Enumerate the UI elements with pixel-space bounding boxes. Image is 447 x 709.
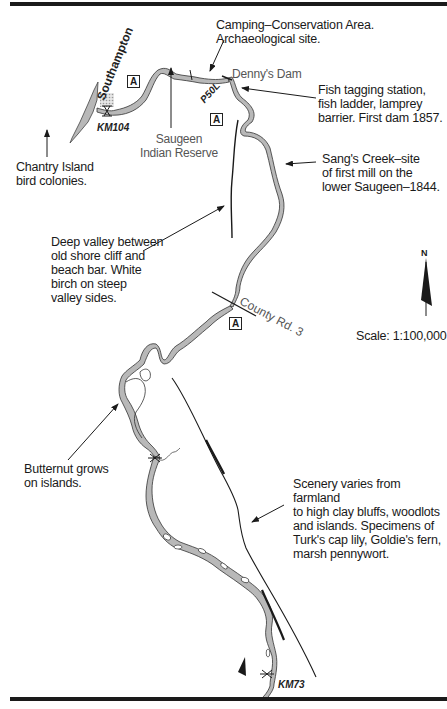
annotation-scenery: Scenery varies from farmland to high cla… — [293, 477, 447, 561]
start-triangle-icon — [238, 657, 246, 676]
annotation-valley: Deep valley between old shore cliff and … — [51, 235, 163, 305]
arrow-scenery — [252, 505, 284, 522]
access-point-icon: A — [127, 75, 140, 88]
north-arrow-icon — [421, 258, 432, 316]
km-marker-104: KM104 — [97, 122, 129, 133]
island — [174, 545, 182, 549]
bluff-line-heavy — [206, 440, 224, 474]
access-point-icon: A — [210, 113, 223, 126]
old-shore-cliff-line — [231, 120, 238, 238]
arrow-sangs — [286, 162, 316, 164]
island-small — [140, 369, 150, 381]
annotation-sangs: Sang's Creek–site of first mill on the l… — [322, 152, 440, 194]
place-label-dennys-dam: Denny's Dam — [232, 67, 301, 81]
place-label-saugeen: Saugeen Indian Reserve — [140, 132, 218, 160]
river-channel-lower — [146, 456, 277, 700]
arrow-fish — [242, 88, 316, 98]
island — [266, 649, 270, 657]
annotation-chantry: Chantry Island bird colonies. — [16, 160, 94, 188]
access-point-icon: A — [229, 317, 242, 330]
arrow-butternut — [68, 404, 118, 460]
river-channel-middle — [228, 77, 284, 307]
annotation-fish: Fish tagging station, fish ladder, lampr… — [318, 83, 442, 125]
km-marker-73: KM73 — [278, 679, 305, 690]
annotation-butternut: Butternut grows on islands. — [24, 462, 109, 490]
lake-shore-spit — [70, 82, 98, 143]
creek — [160, 448, 180, 460]
north-label: N — [421, 246, 427, 260]
annotation-camping: Camping–Conservation Area. Archaeologica… — [216, 18, 374, 46]
bottom-border-rule — [10, 697, 447, 701]
scale-label: Scale: 1:100,000 — [356, 329, 447, 343]
